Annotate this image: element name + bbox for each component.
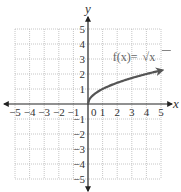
y-tick-label: 3 <box>80 53 86 65</box>
x-tick-label: 3 <box>129 106 135 118</box>
x-tick-label: −3 <box>38 106 50 118</box>
function-curve <box>88 70 161 104</box>
y-tick-label: 2 <box>80 68 86 80</box>
x-tick-label: −2 <box>53 106 65 118</box>
y-tick-label: −3 <box>73 143 85 155</box>
y-tick-label: 5 <box>80 23 86 35</box>
y-axis-title: y <box>83 1 91 16</box>
function-label-prefix: f(x)= <box>113 50 138 64</box>
y-tick-label: −4 <box>73 158 85 170</box>
chart-labels: x y f(x)= √x <box>83 1 179 111</box>
x-axis-title: x <box>172 96 179 111</box>
x-tick-label: −4 <box>24 106 36 118</box>
x-tick-label: 4 <box>144 106 150 118</box>
x-tick-label: −5 <box>9 106 21 118</box>
function-label: f(x)= √x <box>113 50 155 64</box>
x-tick-label: 1 <box>100 106 106 118</box>
sqrt-curve <box>88 70 161 104</box>
y-tick-label: −1 <box>73 113 85 125</box>
y-tick-label: 1 <box>80 83 86 95</box>
y-tick-label: 4 <box>80 38 86 50</box>
x-tick-label: 2 <box>114 106 120 118</box>
y-tick-label: −5 <box>73 173 85 185</box>
square-root-function-graph: −5−4−3−2−1012345−5−4−3−2−112345 x y f(x)… <box>0 0 181 192</box>
x-tick-label: 5 <box>158 106 164 118</box>
y-tick-label: −2 <box>73 128 85 140</box>
x-tick-label: 0 <box>91 106 97 118</box>
function-label-radical: √x <box>143 50 156 64</box>
